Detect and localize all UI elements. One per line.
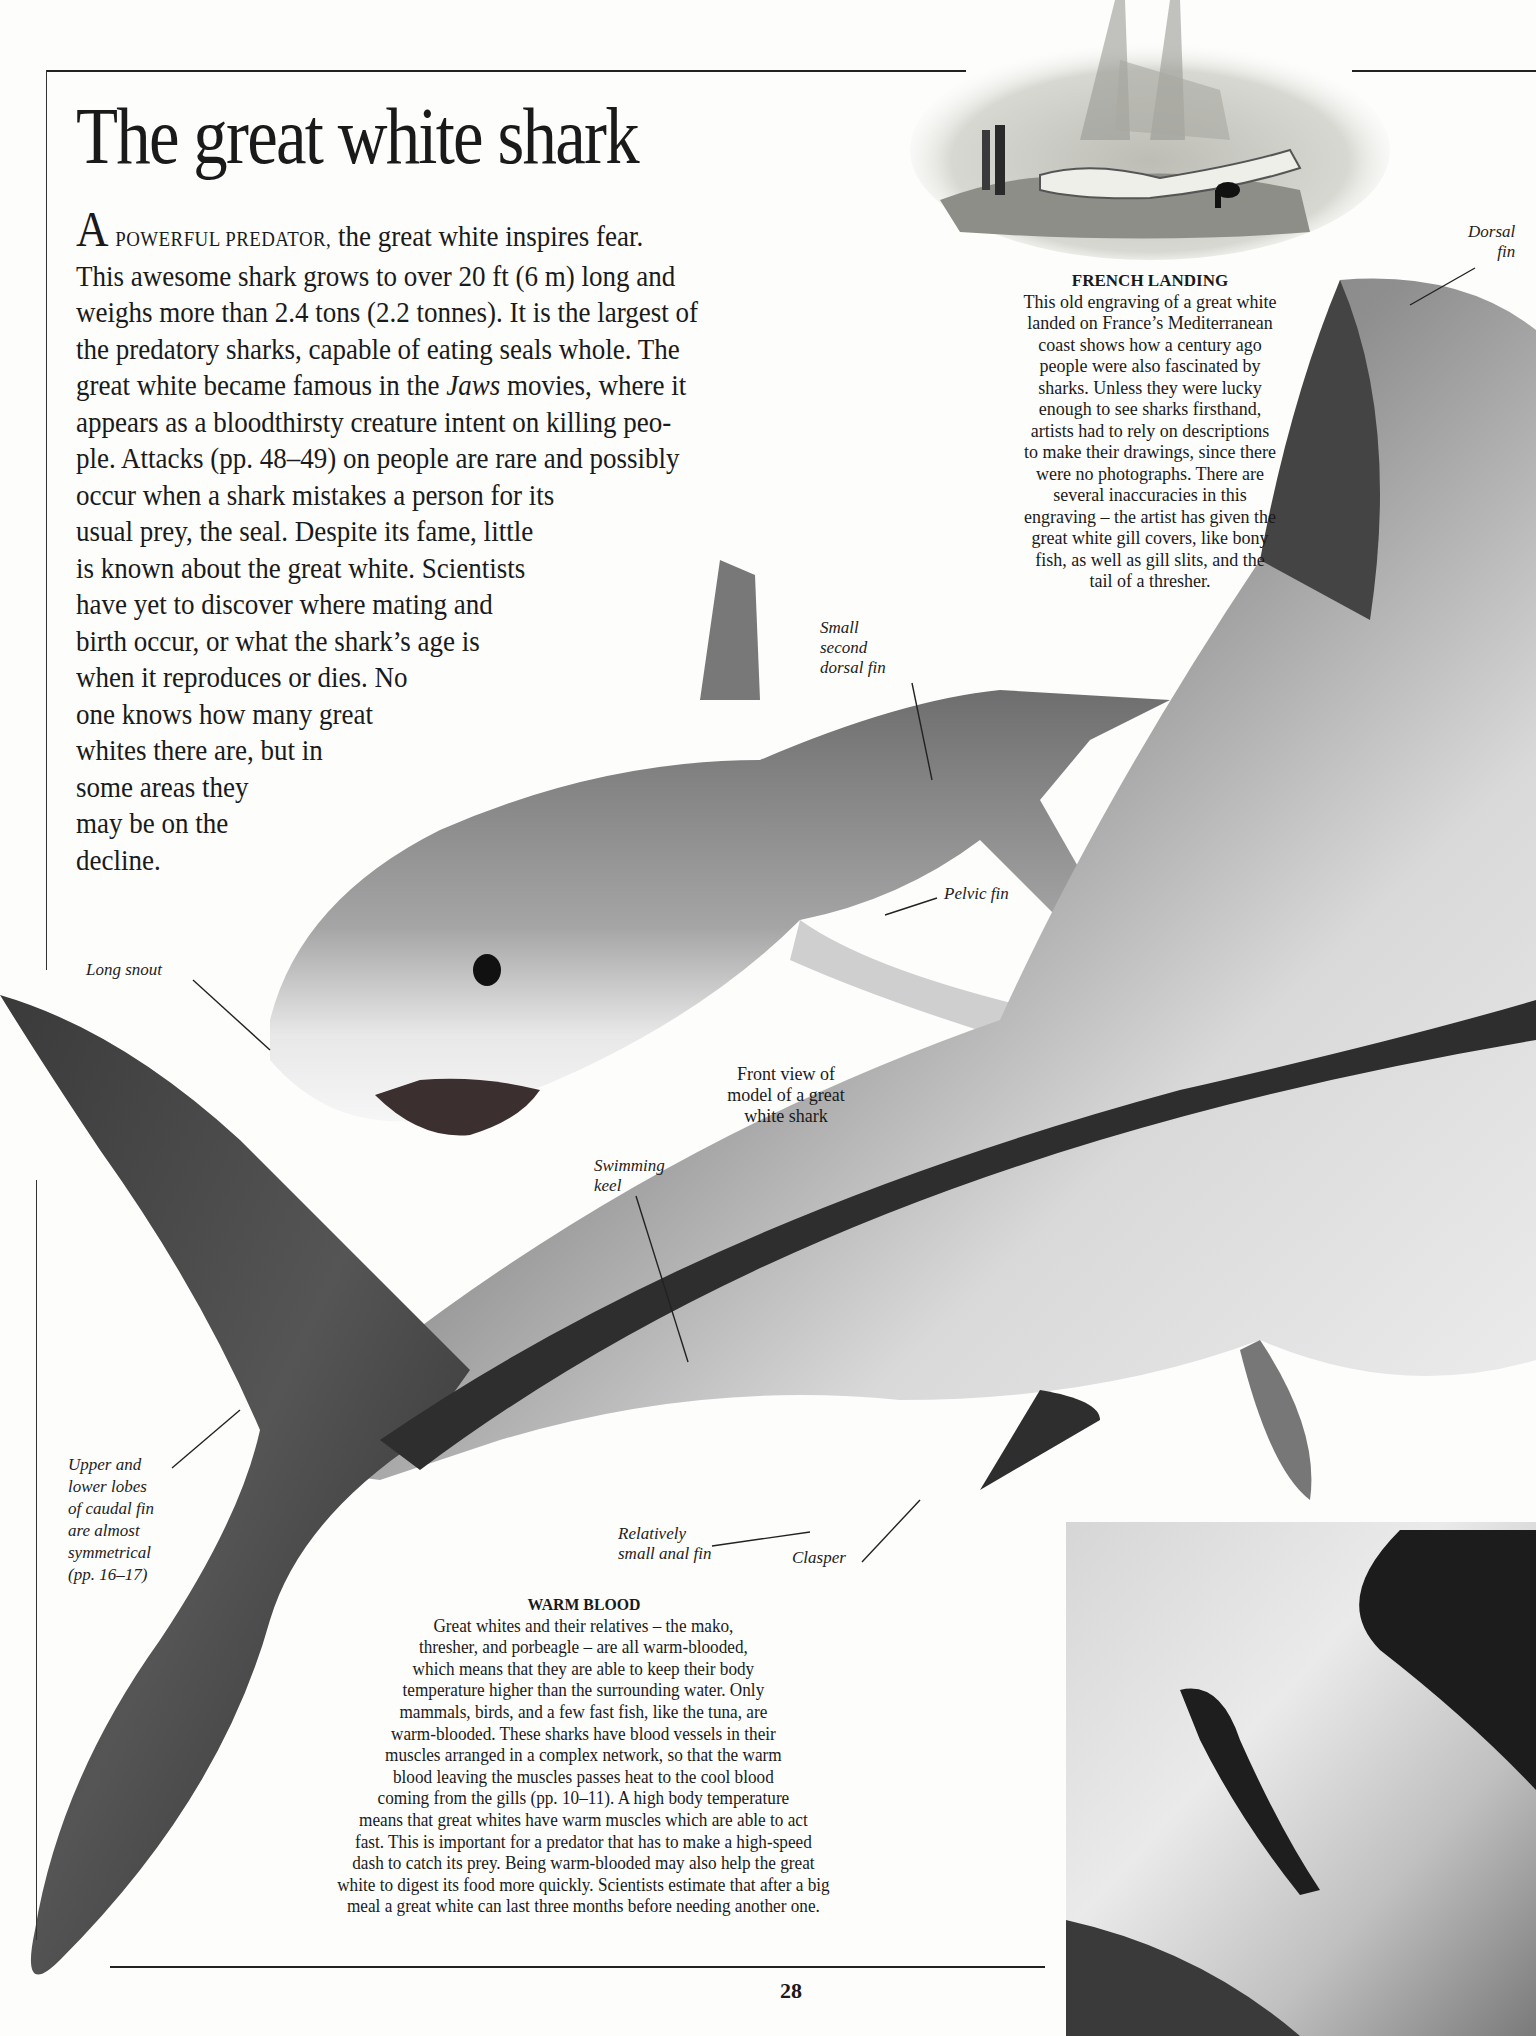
intro-line: the predatory sharks, capable of eating …	[76, 331, 850, 368]
intro-line: have yet to discover where mating and	[76, 586, 850, 623]
page-number: 28	[780, 1978, 802, 2004]
warm-blood-caption: WARM BLOOD Great whites and their relati…	[230, 1594, 937, 1918]
label-swimming-keel: Swimming keel	[594, 1156, 665, 1196]
intro-line: one knows how many great	[76, 696, 850, 733]
label-anal-fin: Relatively small anal fin	[618, 1524, 712, 1564]
intro-paragraph: A POWERFUL PREDATOR, the great white ins…	[76, 214, 850, 878]
label-front-view: Front view of model of a great white sha…	[686, 1064, 886, 1127]
small-caps-lead: POWERFUL PREDATOR,	[115, 227, 331, 251]
intro-line: appears as a bloodthirsty creature inten…	[76, 404, 850, 441]
left-rule	[46, 70, 47, 970]
intro-line: some areas they	[76, 769, 850, 806]
label-long-snout: Long snout	[86, 960, 162, 980]
intro-line: great white became famous in the Jaws mo…	[76, 367, 850, 404]
top-rule	[46, 70, 966, 72]
intro-line: This awesome shark grows to over 20 ft (…	[76, 258, 850, 295]
left-rule-lower	[36, 1180, 37, 1940]
intro-line: birth occur, or what the shark’s age is	[76, 623, 850, 660]
drop-cap: A	[76, 201, 108, 257]
bottom-rule	[110, 1966, 1045, 1968]
label-clasper: Clasper	[792, 1548, 846, 1568]
intro-line: ple. Attacks (pp. 48–49) on people are r…	[76, 440, 850, 477]
intro-line: usual prey, the seal. Despite its fame, …	[76, 513, 850, 550]
engraving-image	[910, 0, 1390, 260]
jaws-title: Jaws	[446, 368, 500, 401]
label-pelvic-fin: Pelvic fin	[944, 884, 1009, 904]
intro-line: decline.	[76, 842, 850, 879]
intro-line: whites there are, but in	[76, 732, 850, 769]
intro-line: when it reproduces or dies. No	[76, 659, 850, 696]
water-photo-image	[1066, 1522, 1536, 2036]
intro-line: A POWERFUL PREDATOR, the great white ins…	[76, 214, 850, 258]
intro-line: may be on the	[76, 805, 850, 842]
french-landing-caption: FRENCH LANDING This old engraving of a g…	[970, 270, 1330, 593]
caption-heading: FRENCH LANDING	[970, 270, 1330, 292]
caption-heading: WARM BLOOD	[230, 1594, 937, 1616]
intro-line: is known about the great white. Scientis…	[76, 550, 850, 587]
intro-line: occur when a shark mistakes a person for…	[76, 477, 850, 514]
label-dorsal-fin: Dorsal fin	[1468, 222, 1515, 262]
label-caudal-fin: Upper and lower lobes of caudal fin are …	[68, 1454, 154, 1586]
page-title: The great white shark	[76, 96, 638, 176]
top-rule-right	[1352, 70, 1536, 72]
label-small-second-dorsal-fin: Small second dorsal fin	[820, 618, 886, 678]
intro-line: weighs more than 2.4 tons (2.2 tonnes). …	[76, 294, 850, 331]
